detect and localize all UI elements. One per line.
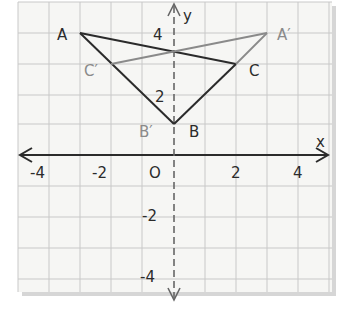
label-a-prime: A′ xyxy=(277,26,291,44)
triangle-abc xyxy=(80,33,236,124)
x-tick-neg4: -4 xyxy=(30,164,45,182)
x-axis-label: x xyxy=(316,133,325,151)
label-b-prime: B′ xyxy=(139,123,153,141)
y-tick-4: 4 xyxy=(153,26,163,44)
coordinate-plane: A B C A′ B′ C′ x y O -4 -2 2 4 4 2 -2 -4 xyxy=(0,0,342,318)
x-tick-2: 2 xyxy=(231,164,241,182)
x-tick-4: 4 xyxy=(293,164,303,182)
x-tick-neg2: -2 xyxy=(92,164,107,182)
label-a: A xyxy=(57,26,68,44)
grid-lines xyxy=(18,2,332,292)
y-tick-neg4: -4 xyxy=(140,268,155,286)
y-tick-neg2: -2 xyxy=(142,207,157,225)
y-axis xyxy=(168,4,180,300)
triangle-image xyxy=(111,33,267,64)
origin-label: O xyxy=(149,164,161,182)
y-axis-label: y xyxy=(183,7,192,25)
y-tick-2: 2 xyxy=(155,88,165,106)
label-c: C xyxy=(249,62,259,80)
label-c-prime: C′ xyxy=(84,62,98,80)
label-b: B xyxy=(189,123,199,141)
